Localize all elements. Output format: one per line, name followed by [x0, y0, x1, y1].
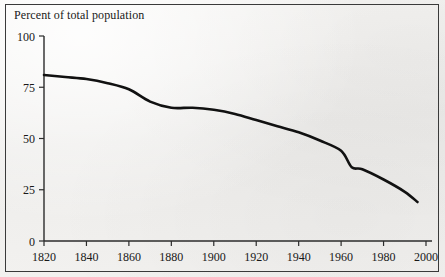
- y-axis-tick-label: 25: [23, 183, 35, 197]
- y-axis-tick-label: 50: [23, 132, 35, 146]
- x-axis-tick-label: 1920: [244, 250, 268, 264]
- x-axis-tick-label: 1880: [159, 250, 183, 264]
- x-axis-tick-label: 1960: [329, 250, 353, 264]
- data-series-group: [44, 75, 418, 202]
- x-axis-tick-label: 1860: [117, 250, 141, 264]
- chart-figure: Percent of total population 0255075100 1…: [0, 0, 445, 277]
- y-axis: 0255075100: [17, 30, 44, 249]
- x-axis-tick-label: 2000: [414, 250, 438, 264]
- y-axis-tick-label: 0: [29, 235, 35, 249]
- y-axis-tick-label: 75: [23, 81, 35, 95]
- x-axis-tick-label: 1840: [74, 250, 98, 264]
- x-axis-tick-label: 1900: [202, 250, 226, 264]
- series-line: [44, 75, 418, 202]
- line-chart-plot: 0255075100 18201840186018801900192019401…: [0, 0, 445, 277]
- y-axis-tick-label: 100: [17, 30, 35, 44]
- x-axis-tick-label: 1980: [372, 250, 396, 264]
- x-axis-tick-label: 1820: [32, 250, 56, 264]
- x-axis: 1820184018601880190019201940196019802000: [32, 241, 438, 264]
- x-axis-tick-label: 1940: [287, 250, 311, 264]
